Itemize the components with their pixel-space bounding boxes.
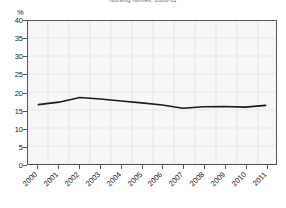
y-tick-label: 0: [1, 161, 23, 170]
x-tick-mark: [37, 165, 38, 169]
x-tick-label: 2001: [42, 170, 60, 188]
data-line-svg: [28, 21, 276, 164]
y-tick-label: 20: [1, 88, 23, 97]
x-tick-mark: [183, 165, 184, 169]
chart-title: Nursing homes, 2000-11: [0, 0, 286, 3]
x-tick-label: 2006: [146, 170, 164, 188]
y-tick-label: 25: [1, 70, 23, 79]
x-tick-label: 2010: [230, 170, 248, 188]
x-tick-label: 2004: [105, 170, 123, 188]
y-tick-label: 30: [1, 52, 23, 61]
x-tick-label: 2007: [167, 170, 185, 188]
x-tick-label: 2003: [84, 170, 102, 188]
x-tick-mark: [162, 165, 163, 169]
x-tick-mark: [267, 165, 268, 169]
x-tick-label: 2008: [188, 170, 206, 188]
x-tick-label: 2011: [250, 170, 268, 188]
x-tick-mark: [100, 165, 101, 169]
x-tick-mark: [58, 165, 59, 169]
series-line-nursing-homes: [38, 98, 265, 109]
x-tick-label: 2009: [209, 170, 227, 188]
x-tick-mark: [142, 165, 143, 169]
x-tick-mark: [79, 165, 80, 169]
x-tick-label: 2005: [125, 170, 143, 188]
y-tick-label: 15: [1, 106, 23, 115]
y-tick-mark: [23, 165, 27, 166]
x-tick-label: 2002: [63, 170, 81, 188]
plot-area: [27, 20, 277, 165]
x-tick-mark: [246, 165, 247, 169]
y-tick-label: 5: [1, 142, 23, 151]
y-tick-label: 35: [1, 34, 23, 43]
x-tick-mark: [225, 165, 226, 169]
chart-container: Nursing homes, 2000-11 % 051015202530354…: [0, 0, 286, 208]
x-tick-label: 2000: [21, 170, 39, 188]
y-tick-label: 40: [1, 16, 23, 25]
x-tick-mark: [121, 165, 122, 169]
y-tick-label: 10: [1, 124, 23, 133]
x-tick-mark: [204, 165, 205, 169]
